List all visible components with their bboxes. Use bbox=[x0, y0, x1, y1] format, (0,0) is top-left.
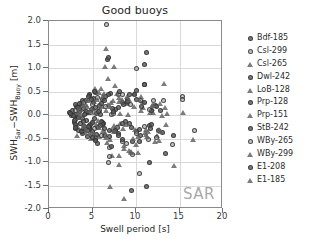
data-point bbox=[107, 104, 113, 109]
legend-marker-icon bbox=[243, 174, 257, 187]
plot-area: SAR bbox=[48, 20, 222, 208]
y-tick-mark bbox=[43, 91, 48, 92]
data-point bbox=[142, 82, 147, 87]
data-point bbox=[112, 83, 118, 88]
legend-item-e1-208[interactable]: E1-208 bbox=[243, 161, 320, 174]
legend-item-wby-265[interactable]: WBy-265 bbox=[243, 135, 320, 148]
data-point bbox=[144, 184, 149, 189]
data-point bbox=[148, 126, 153, 131]
data-point bbox=[142, 100, 147, 105]
data-point bbox=[76, 106, 82, 111]
data-point bbox=[142, 124, 147, 129]
x-tick-label: 10 bbox=[130, 211, 141, 221]
x-tick-label: 20 bbox=[217, 211, 228, 221]
legend-item-prp-128[interactable]: Prp-128 bbox=[243, 96, 320, 109]
data-point bbox=[74, 133, 80, 138]
legend-item-stb-242[interactable]: StB-242 bbox=[243, 122, 320, 135]
data-point bbox=[104, 22, 109, 27]
data-point bbox=[144, 50, 149, 55]
data-point bbox=[136, 97, 142, 102]
legend-marker-glyph bbox=[247, 62, 253, 67]
x-tick-label: 0 bbox=[45, 211, 50, 221]
data-point bbox=[121, 143, 127, 148]
data-point bbox=[180, 97, 185, 102]
data-point bbox=[125, 112, 131, 117]
legend-item-csl-265[interactable]: Csl-265 bbox=[243, 58, 320, 71]
data-point bbox=[73, 125, 78, 130]
legend-item-label: LoB-128 bbox=[257, 84, 290, 97]
data-point bbox=[106, 160, 111, 165]
legend-item-label: Bdf-185 bbox=[257, 32, 288, 45]
data-point bbox=[92, 110, 98, 115]
legend-marker-icon bbox=[243, 148, 257, 161]
legend-marker-glyph bbox=[248, 100, 253, 105]
legend-item-label: Csl-265 bbox=[257, 58, 287, 71]
data-point bbox=[164, 111, 170, 116]
data-point bbox=[150, 102, 156, 107]
data-point bbox=[158, 108, 163, 113]
data-point bbox=[132, 127, 138, 132]
legend-marker-icon bbox=[243, 84, 257, 97]
gridline-horizontal bbox=[49, 162, 221, 163]
legend-marker-icon bbox=[243, 71, 257, 84]
data-point bbox=[96, 125, 102, 130]
legend-marker-glyph bbox=[247, 88, 253, 93]
data-point bbox=[102, 64, 108, 69]
data-point bbox=[137, 171, 142, 176]
x-tick-label: 15 bbox=[173, 211, 184, 221]
y-axis-label-wrapper: SWHSar−SWHBuoy [m] bbox=[0, 20, 14, 208]
data-point bbox=[84, 97, 90, 102]
data-point bbox=[158, 129, 164, 134]
data-point bbox=[105, 76, 111, 81]
legend-item-csl-299[interactable]: Csl-299 bbox=[243, 45, 320, 58]
legend-item-e1-185[interactable]: E1-185 bbox=[243, 174, 320, 187]
data-point bbox=[171, 133, 176, 138]
y-tick-mark bbox=[43, 161, 48, 162]
data-point bbox=[163, 151, 168, 156]
x-axis-label: Swell period [s] bbox=[48, 224, 222, 234]
legend-marker-icon bbox=[243, 45, 257, 58]
legend-item-label: Csl-299 bbox=[257, 45, 287, 58]
data-point bbox=[138, 108, 144, 113]
y-tick-mark bbox=[43, 44, 48, 45]
legend: Bdf-185Csl-299Csl-265Dwl-242LoB-128Prp-1… bbox=[243, 32, 320, 187]
data-point bbox=[117, 111, 123, 116]
y-tick-mark bbox=[43, 20, 48, 21]
data-point bbox=[121, 102, 126, 107]
legend-marker-icon bbox=[243, 96, 257, 109]
legend-item-dwl-242[interactable]: Dwl-242 bbox=[243, 71, 320, 84]
legend-item-wby-299[interactable]: WBy-299 bbox=[243, 148, 320, 161]
data-point bbox=[144, 134, 150, 139]
data-point bbox=[111, 64, 117, 69]
data-point bbox=[104, 140, 110, 145]
data-point bbox=[161, 81, 167, 86]
legend-marker-icon bbox=[243, 109, 257, 122]
legend-marker-glyph bbox=[248, 36, 253, 41]
data-point bbox=[180, 110, 186, 115]
data-point bbox=[103, 46, 109, 51]
y-tick-mark bbox=[43, 185, 48, 186]
gridline-vertical bbox=[136, 21, 137, 207]
data-point bbox=[126, 97, 132, 102]
data-point bbox=[190, 137, 196, 142]
data-point bbox=[106, 55, 111, 60]
data-point bbox=[94, 97, 100, 102]
data-point bbox=[170, 142, 175, 147]
legend-marker-glyph bbox=[248, 165, 253, 170]
data-point bbox=[107, 184, 113, 189]
legend-item-bdf-185[interactable]: Bdf-185 bbox=[243, 32, 320, 45]
legend-item-lob-128[interactable]: LoB-128 bbox=[243, 84, 320, 97]
legend-item-label: Prp-151 bbox=[257, 109, 288, 122]
legend-marker-icon bbox=[243, 32, 257, 45]
data-point bbox=[132, 92, 137, 97]
legend-item-label: E1-208 bbox=[257, 161, 285, 174]
data-point bbox=[126, 148, 132, 153]
legend-item-label: Prp-128 bbox=[257, 96, 288, 109]
data-point bbox=[111, 109, 116, 114]
data-point bbox=[116, 162, 122, 167]
data-point bbox=[81, 122, 87, 127]
y-axis-label: SWHSar−SWHBuoy [m] bbox=[9, 19, 21, 207]
legend-marker-glyph bbox=[247, 113, 253, 118]
legend-item-prp-151[interactable]: Prp-151 bbox=[243, 109, 320, 122]
data-point bbox=[127, 121, 132, 126]
